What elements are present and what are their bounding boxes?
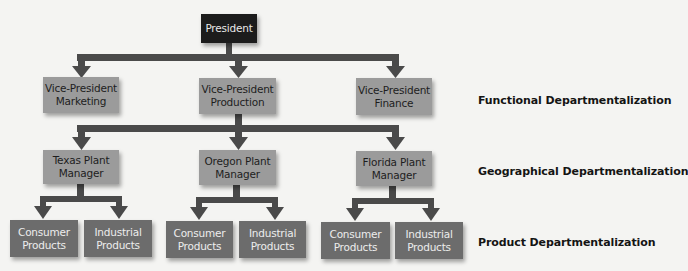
president-box: President (201, 14, 257, 43)
vp-production-dept: Production (211, 96, 265, 109)
product-label-line2: Products (407, 241, 451, 254)
product-label-line2: Products (334, 241, 378, 254)
oregon-consumer-products-box: Consumer Products (166, 221, 233, 258)
texas-plant-manager-box: Texas Plant Manager (43, 150, 119, 184)
vp-finance-box: Vice-President Finance (356, 78, 432, 115)
texas-consumer-products-box: Consumer Products (10, 220, 78, 257)
product-label-line2: Products (178, 240, 222, 253)
oregon-industrial-products-box: Industrial Products (239, 221, 306, 258)
product-label-line1: Industrial (94, 226, 141, 239)
president-label: President (205, 22, 252, 35)
product-label-line2: Products (96, 239, 140, 252)
texas-industrial-products-box: Industrial Products (84, 220, 152, 257)
florida-plant-manager-box: Florida Plant Manager (356, 151, 432, 186)
vp-marketing-dept: Marketing (56, 95, 107, 108)
vp-production-title: Vice-President (201, 83, 273, 96)
vp-finance-dept: Finance (375, 97, 414, 110)
product-label-line1: Consumer (330, 228, 382, 241)
geographical-departmentalization-label: Geographical Departmentalization (478, 165, 688, 178)
product-label-line1: Industrial (249, 227, 296, 240)
functional-departmentalization-label: Functional Departmentalization (478, 94, 671, 107)
florida-industrial-products-box: Industrial Products (395, 222, 463, 259)
florida-plant-label: Florida Plant (363, 156, 426, 169)
texas-manager-label: Manager (59, 167, 104, 180)
oregon-manager-label: Manager (215, 168, 260, 181)
vp-production-box: Vice-President Production (199, 78, 276, 114)
oregon-plant-label: Oregon Plant (205, 155, 271, 168)
vp-marketing-title: Vice-President (45, 82, 117, 95)
texas-plant-label: Texas Plant (53, 154, 110, 167)
product-label-line1: Consumer (18, 226, 70, 239)
product-label-line2: Products (251, 240, 295, 253)
oregon-plant-manager-box: Oregon Plant Manager (199, 150, 276, 185)
product-label-line1: Consumer (174, 227, 226, 240)
product-label-line1: Industrial (405, 228, 452, 241)
florida-consumer-products-box: Consumer Products (321, 222, 390, 259)
florida-manager-label: Manager (372, 169, 417, 182)
product-label-line2: Products (22, 239, 66, 252)
vp-finance-title: Vice-President (358, 84, 430, 97)
product-departmentalization-label: Product Departmentalization (478, 236, 655, 249)
vp-marketing-box: Vice-President Marketing (43, 77, 119, 113)
